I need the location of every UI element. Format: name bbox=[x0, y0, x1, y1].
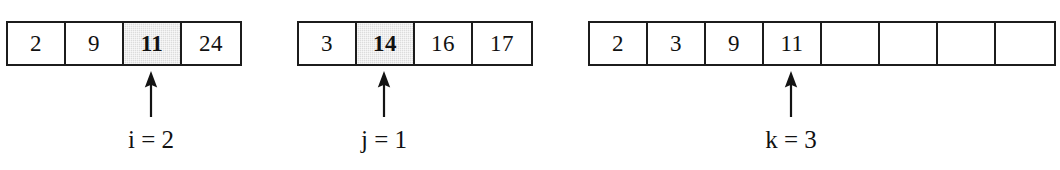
array-cell[interactable] bbox=[938, 23, 996, 64]
pointer-label-i: i = 2 bbox=[41, 126, 261, 154]
array-cell[interactable]: 14 bbox=[357, 23, 415, 64]
array-left-subarray: 291124 bbox=[6, 21, 242, 66]
up-arrow-icon bbox=[372, 71, 396, 117]
pointer-label-j: j = 1 bbox=[274, 126, 494, 154]
array-cell[interactable]: 2 bbox=[590, 23, 648, 64]
array-cell[interactable]: 11 bbox=[764, 23, 822, 64]
array-cell[interactable]: 2 bbox=[8, 23, 66, 64]
array-cell[interactable]: 3 bbox=[299, 23, 357, 64]
array-right-subarray: 3141617 bbox=[297, 21, 533, 66]
array-cell[interactable]: 9 bbox=[706, 23, 764, 64]
pointer-label-k: k = 3 bbox=[681, 126, 901, 154]
array-cell[interactable] bbox=[996, 23, 1054, 64]
array-cell[interactable]: 17 bbox=[473, 23, 531, 64]
array-cell[interactable] bbox=[822, 23, 880, 64]
array-merged-output-array: 23911 bbox=[588, 21, 1056, 66]
array-cell[interactable]: 3 bbox=[648, 23, 706, 64]
array-cell[interactable]: 9 bbox=[66, 23, 124, 64]
merge-step-figure: 291124i = 23141617j = 123911k = 3 bbox=[0, 0, 1060, 170]
array-cell[interactable]: 16 bbox=[415, 23, 473, 64]
up-arrow-icon bbox=[139, 71, 163, 117]
array-cell[interactable] bbox=[880, 23, 938, 64]
array-cell[interactable]: 11 bbox=[124, 23, 182, 64]
up-arrow-icon bbox=[779, 71, 803, 117]
array-cell[interactable]: 24 bbox=[182, 23, 240, 64]
